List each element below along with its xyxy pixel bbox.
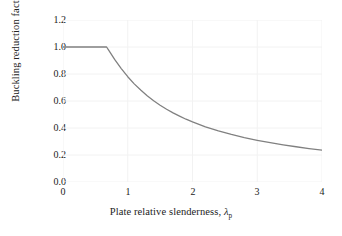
y-tick-label: 1.2 bbox=[36, 15, 66, 25]
gridlines bbox=[63, 20, 322, 182]
y-axis-label-text: Buckling reduction factor, bbox=[10, 0, 21, 102]
x-tick-label: 1 bbox=[118, 186, 138, 197]
x-axis-label: Plate relative slenderness, λp bbox=[0, 206, 342, 220]
y-tick-label: 1.0 bbox=[36, 42, 66, 52]
plot-area bbox=[63, 20, 322, 182]
chart-canvas bbox=[63, 20, 322, 182]
x-tick-label: 2 bbox=[183, 186, 203, 197]
y-tick-label: 0.4 bbox=[36, 123, 66, 133]
y-tick-label: 0.2 bbox=[36, 150, 66, 160]
y-tick-label: 0.6 bbox=[36, 96, 66, 106]
x-axis-label-subscript: p bbox=[229, 212, 233, 220]
y-tick-label: 0.8 bbox=[36, 69, 66, 79]
x-tick-label: 3 bbox=[247, 186, 267, 197]
x-tick-label: 4 bbox=[312, 186, 332, 197]
chart-figure: Buckling reduction factor, ρ 1.2 1.0 0.8… bbox=[0, 0, 342, 236]
y-axis-label: Buckling reduction factor, ρ bbox=[10, 0, 21, 127]
x-tick-label: 0 bbox=[53, 186, 73, 197]
x-axis-label-text: Plate relative slenderness, bbox=[110, 206, 224, 217]
